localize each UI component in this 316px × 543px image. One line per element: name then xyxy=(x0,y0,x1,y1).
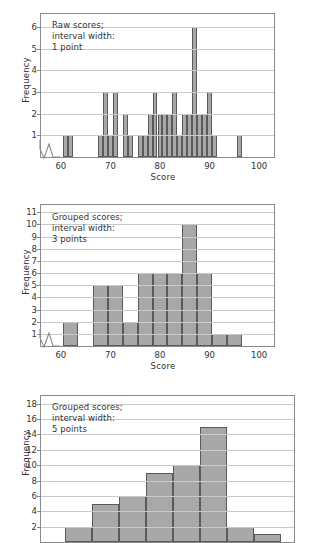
histogram-bar xyxy=(237,135,242,157)
y-tick-mark xyxy=(37,249,41,250)
x-tick-label: 90 xyxy=(204,351,215,360)
gridline xyxy=(41,322,274,323)
y-tick-mark xyxy=(37,450,41,451)
y-tick-mark xyxy=(37,310,41,311)
gridline xyxy=(41,114,274,115)
x-tick-label: 100 xyxy=(251,351,267,360)
x-tick-label: 60 xyxy=(55,162,66,171)
gridline xyxy=(41,273,274,274)
histogram-bar xyxy=(254,534,281,542)
y-tick-mark xyxy=(37,511,41,512)
gridline xyxy=(41,92,274,93)
y-tick-mark xyxy=(37,92,41,93)
y-tick-label: 18 xyxy=(26,399,37,408)
y-tick-mark xyxy=(37,70,41,71)
y-tick-mark xyxy=(37,465,41,466)
y-tick-mark xyxy=(37,212,41,213)
gridline xyxy=(41,527,294,528)
histogram-bar xyxy=(212,135,217,157)
histogram-bar xyxy=(113,92,118,157)
x-tick-label: 60 xyxy=(55,351,66,360)
y-tick-mark xyxy=(37,237,41,238)
gridline xyxy=(41,450,294,451)
y-tick-mark xyxy=(37,261,41,262)
histogram-bar xyxy=(65,527,92,542)
panel-annotation-2: Grouped scores; interval width: 3 points xyxy=(52,212,123,245)
panel-annotation-1: Raw scores; interval width: 1 point xyxy=(52,20,115,53)
gridline xyxy=(41,496,294,497)
chart-panel-grouped-3-points: Frequency 123456789101160708090100 Score… xyxy=(0,190,306,375)
histogram-bar xyxy=(92,504,119,542)
y-tick-mark xyxy=(37,114,41,115)
y-tick-mark xyxy=(37,404,41,405)
y-tick-mark xyxy=(37,135,41,136)
x-axis-label: Score xyxy=(10,172,316,182)
y-tick-mark xyxy=(37,322,41,323)
y-tick-label: 14 xyxy=(26,430,37,439)
x-tick-label: 100 xyxy=(251,162,267,171)
y-axis-label: Frequency xyxy=(21,249,31,295)
histogram-bar xyxy=(212,334,227,346)
y-tick-label: 11 xyxy=(26,208,37,217)
gridline xyxy=(41,249,274,250)
y-tick-mark xyxy=(37,285,41,286)
y-tick-mark xyxy=(37,27,41,28)
histogram-bar xyxy=(173,465,200,542)
x-tick-label: 70 xyxy=(105,351,116,360)
gridline xyxy=(41,261,274,262)
gridline xyxy=(41,511,294,512)
x-tick-label: 80 xyxy=(155,351,166,360)
y-tick-label: 10 xyxy=(26,220,37,229)
axis-break-icon-1 xyxy=(38,140,62,162)
y-tick-label: 16 xyxy=(26,415,37,424)
chart-panel-raw-1-point: Frequency 12345660708090100 Score Raw sc… xyxy=(0,0,306,190)
chart-panel-grouped-5-points: Frequency 24681012141618 Grouped scores;… xyxy=(0,375,306,540)
y-tick-mark xyxy=(37,49,41,50)
histogram-bar xyxy=(227,527,254,542)
gridline xyxy=(41,135,274,136)
gridline xyxy=(41,297,274,298)
panel-annotation-3: Grouped scores; interval width: 5 points xyxy=(52,402,123,435)
y-tick-label: 12 xyxy=(26,446,37,455)
y-tick-mark xyxy=(37,496,41,497)
y-tick-mark xyxy=(37,273,41,274)
y-tick-label: 10 xyxy=(26,461,37,470)
axis-break-icon-2 xyxy=(38,329,62,351)
y-tick-mark xyxy=(37,297,41,298)
gridline xyxy=(41,310,274,311)
histogram-bar xyxy=(68,135,73,157)
histogram-bar xyxy=(128,135,133,157)
histogram-bar xyxy=(93,285,108,346)
y-tick-mark xyxy=(37,419,41,420)
x-tick-label: 90 xyxy=(204,162,215,171)
y-tick-mark xyxy=(37,527,41,528)
gridline xyxy=(41,70,274,71)
x-tick-label: 70 xyxy=(105,162,116,171)
histogram-bar xyxy=(146,473,173,542)
gridline xyxy=(41,285,274,286)
x-tick-label: 80 xyxy=(155,162,166,171)
gridline xyxy=(41,465,294,466)
y-tick-mark xyxy=(37,224,41,225)
x-axis-label: Score xyxy=(10,361,316,371)
histogram-bar xyxy=(119,496,146,542)
histogram-bar xyxy=(227,334,242,346)
gridline xyxy=(41,334,274,335)
y-axis-label: Frequency xyxy=(21,57,31,103)
y-tick-mark xyxy=(37,481,41,482)
histogram-bar xyxy=(108,285,123,346)
gridline xyxy=(41,481,294,482)
histogram-bar xyxy=(200,427,227,542)
y-tick-mark xyxy=(37,434,41,435)
